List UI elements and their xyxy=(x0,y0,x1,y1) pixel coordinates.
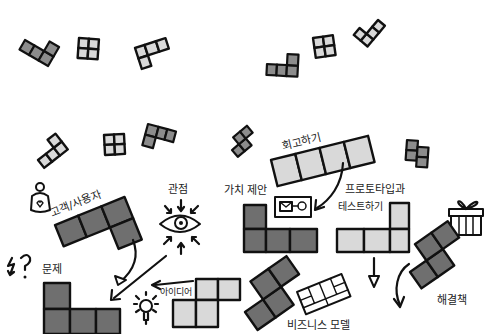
eye-icon xyxy=(160,200,200,254)
prototype-label-line2: 테스트하기 xyxy=(338,200,383,212)
deco-block-3 xyxy=(135,38,172,69)
envelope-card-icon xyxy=(275,197,311,217)
deco-block-2 xyxy=(78,38,99,59)
deco-block-5 xyxy=(313,35,336,58)
lightning-question-icon xyxy=(8,255,30,279)
solution-label: 해결책 xyxy=(437,293,467,307)
perspective-label: 관점 xyxy=(168,183,188,196)
user-heart-icon xyxy=(31,183,50,212)
deco-block-11 xyxy=(405,140,429,167)
deco-block-9 xyxy=(142,124,176,153)
lightbulb-icon xyxy=(134,292,158,324)
business-model-label: 비즈니스 모델 xyxy=(287,319,351,332)
idea-label: 아이디어 xyxy=(160,287,192,297)
deco-block-7 xyxy=(32,134,68,168)
deco-block-4 xyxy=(266,53,298,77)
deco-block-6 xyxy=(354,14,385,46)
value-proposition-label: 가치 제안 xyxy=(224,184,268,197)
arrow-head xyxy=(369,276,379,287)
deco-block-8 xyxy=(104,134,125,155)
diagram-canvas: 회고하기 고객/사용자 관점 문제 xyxy=(0,0,496,334)
problem-label: 문제 xyxy=(42,263,62,276)
deco-block-1 xyxy=(20,30,60,66)
arrow-perspective-to-problem xyxy=(114,256,166,298)
prototype-label-line1: 프로토타입과 xyxy=(345,183,405,196)
business-canvas-icon xyxy=(297,274,350,314)
deco-block-10 xyxy=(226,126,258,157)
problem-block xyxy=(44,283,120,334)
